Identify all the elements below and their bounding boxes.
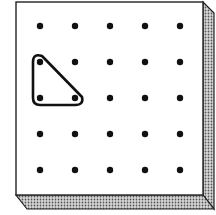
peg [142,167,148,173]
peg [142,23,148,29]
peg [177,23,183,29]
board-bottom-edge [16,195,214,209]
peg [72,131,78,137]
peg [72,23,78,29]
peg [107,95,113,101]
peg [107,59,113,65]
peg [107,131,113,137]
peg [72,95,78,101]
peg [37,95,43,101]
geoboard-diagram [0,0,216,215]
peg [37,59,43,65]
peg [107,23,113,29]
peg [37,23,43,29]
peg [177,59,183,65]
peg [142,95,148,101]
peg [37,131,43,137]
peg [107,167,113,173]
peg [177,167,183,173]
peg [142,59,148,65]
peg [72,167,78,173]
peg [37,167,43,173]
peg [177,95,183,101]
peg [72,59,78,65]
peg [142,131,148,137]
board-right-edge [203,2,214,209]
peg [177,131,183,137]
